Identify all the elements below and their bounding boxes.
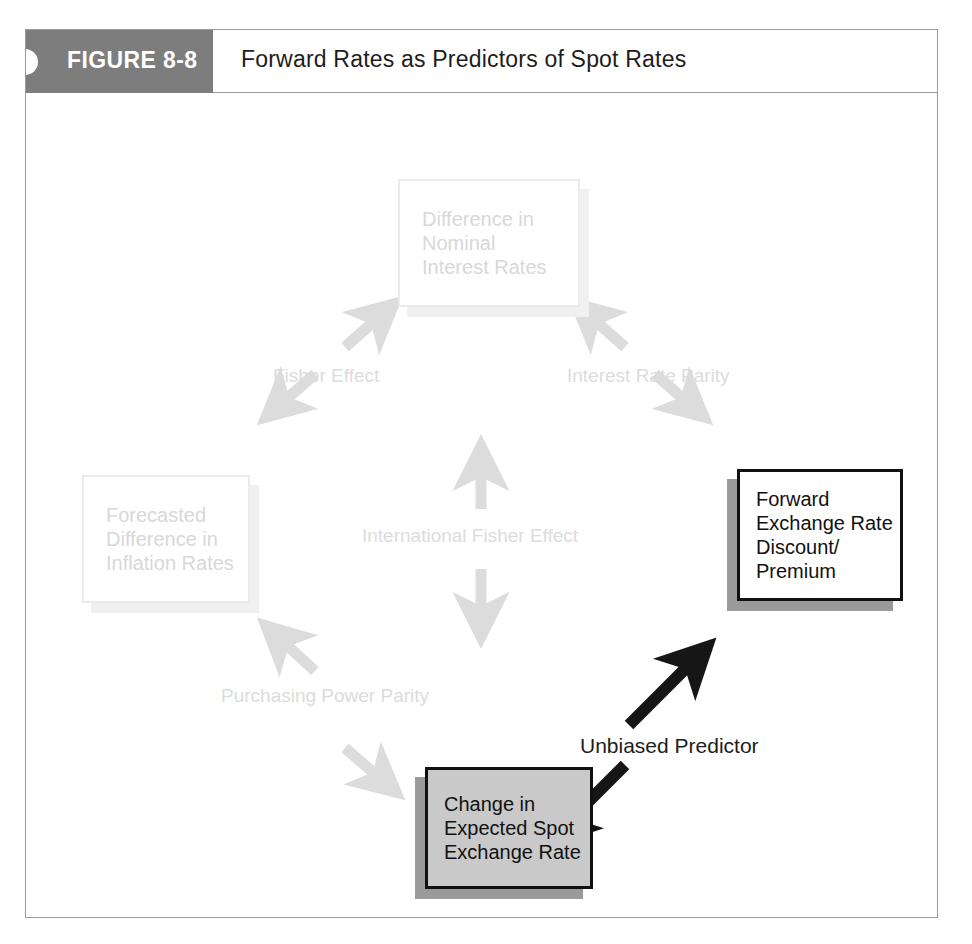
node-forward-exchange-rate: Forward Exchange Rate Discount/ Premium [737, 469, 903, 601]
edge-label-fisher-effect: Fisher Effect [273, 365, 379, 387]
figure-title: Forward Rates as Predictors of Spot Rate… [241, 46, 686, 73]
arrow-purchasing-power-parity [265, 625, 397, 793]
edge-label-international-fisher-effect: International Fisher Effect [362, 525, 578, 547]
badge-notch-icon [12, 49, 38, 75]
node-label-expected-spot-rate: Change in Expected Spot Exchange Rate [428, 792, 581, 864]
figure-container: FIGURE 8-8 Forward Rates as Predictors o… [25, 29, 938, 918]
node-nominal-interest-rates: Difference in Nominal Interest Rates [398, 179, 580, 307]
edge-label-interest-rate-parity: Interest Rate Parity [567, 365, 730, 387]
figure-number-badge: FIGURE 8-8 [25, 29, 213, 93]
node-expected-spot-rate: Change in Expected Spot Exchange Rate [425, 767, 593, 889]
arrow-interest-rate-parity [575, 303, 705, 418]
node-label-forward-exchange-rate: Forward Exchange Rate Discount/ Premium [740, 487, 893, 583]
arrow-fisher-effect [265, 303, 395, 418]
edge-label-unbiased-predictor: Unbiased Predictor [580, 734, 759, 758]
edge-label-purchasing-power-parity: Purchasing Power Parity [221, 685, 429, 707]
node-label-inflation-rates: Forecasted Difference in Inflation Rates [84, 503, 234, 575]
node-label-nominal-interest-rates: Difference in Nominal Interest Rates [400, 207, 547, 279]
diagram-canvas: Difference in Nominal Interest Rates For… [25, 93, 938, 917]
node-inflation-rates: Forecasted Difference in Inflation Rates [82, 475, 250, 603]
figure-number-label: FIGURE 8-8 [67, 47, 198, 74]
figure-header: FIGURE 8-8 Forward Rates as Predictors o… [25, 29, 938, 93]
